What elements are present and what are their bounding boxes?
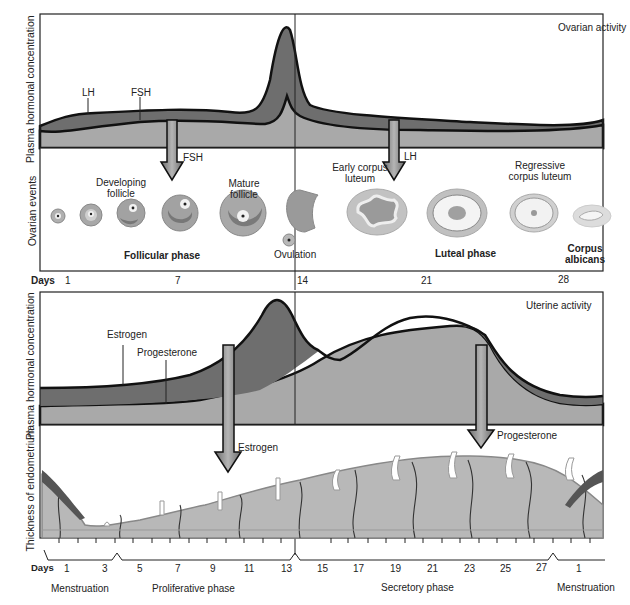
progesterone-label: Progesterone (137, 347, 197, 358)
luteal-phase-label: Luteal phase (435, 248, 496, 259)
regressive-corpus-luteum-label: Regressive corpus luteum (500, 160, 580, 182)
ovarian-events-label: Ovarian events (26, 166, 38, 256)
uterine-day-tick: 23 (464, 563, 475, 574)
mature-follicle-label: Mature follicle (219, 178, 269, 200)
uterine-day-tick: 13 (281, 563, 292, 574)
uterine-y-axis-label: Plasma hormonal concentration (24, 300, 36, 440)
menstruation-end-label: Menstruation (557, 582, 615, 593)
uterine-day-tick: 21 (427, 563, 438, 574)
uterine-day-tick: 17 (353, 563, 364, 574)
uterine-day-tick: 15 (317, 563, 328, 574)
uterine-day-tick: 7 (175, 563, 181, 574)
uterine-day-tick: 11 (244, 563, 254, 574)
uterine-day-tick: 25 (500, 563, 511, 574)
progesterone-arrow-label: Progesterone (497, 430, 557, 441)
estrogen-arrow-label: Estrogen (238, 442, 278, 453)
endometrium-y-axis-label: Thickness of endometrium (24, 420, 36, 560)
uterine-day-tick: 19 (390, 563, 401, 574)
early-corpus-luteum-label: Early corpus luteum (320, 162, 400, 184)
fsh-label: FSH (131, 87, 151, 98)
uterine-day-tick: 3 (102, 563, 108, 574)
uterine-day-tick: 9 (210, 563, 216, 574)
phase-brace-line (44, 550, 605, 560)
ovulation-label: Ovulation (274, 249, 316, 260)
uterine-day-tick: 5 (137, 563, 143, 574)
fsh-arrow-label: FSH (183, 152, 203, 163)
uterine-day-tick: 27 (536, 562, 547, 573)
ovarian-days-label: Days (31, 275, 55, 286)
ovarian-day-tick: 21 (421, 275, 432, 286)
developing-follicle-label: Developing follicle (86, 177, 156, 199)
lh-label: LH (82, 87, 95, 98)
ovarian-y-axis-label: Plasma hormonal concentration (24, 23, 36, 163)
lh-arrow-label: LH (404, 151, 417, 162)
ovarian-activity-title: Ovarian activity (558, 22, 626, 33)
ovarian-day-tick: 14 (297, 275, 308, 286)
uterine-day-tick: 1 (64, 563, 70, 574)
follicular-phase-label: Follicular phase (124, 250, 200, 261)
uterine-day-tick: 1 (576, 563, 582, 574)
corpus-albicans-label: Corpus albicans (565, 243, 605, 265)
secretory-phase-label: Secretory phase (381, 582, 454, 593)
ovarian-day-tick: 7 (175, 275, 181, 286)
ovarian-hormone-chart (40, 14, 603, 148)
uterine-activity-title: Uterine activity (526, 300, 592, 311)
uterine-days-label: Days (31, 562, 54, 573)
ovarian-day-tick: 1 (65, 275, 71, 286)
proliferative-phase-label: Proliferative phase (152, 583, 235, 594)
menstruation-start-label: Menstruation (51, 583, 109, 594)
estrogen-label: Estrogen (107, 329, 147, 340)
ovarian-day-tick: 28 (558, 274, 569, 285)
